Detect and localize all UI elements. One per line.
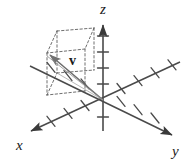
vector-diagram-figure: x y z v — [0, 0, 189, 163]
z-axis — [98, 25, 109, 131]
box-top-face — [47, 28, 94, 53]
y-axis-label: y — [170, 143, 179, 159]
box-bottom-face — [47, 70, 94, 95]
x-axis-label: x — [15, 137, 23, 153]
vector-v-label: v — [69, 53, 76, 68]
z-axis-label: z — [99, 1, 106, 17]
coordinate-system-svg: x y z v — [0, 0, 189, 163]
